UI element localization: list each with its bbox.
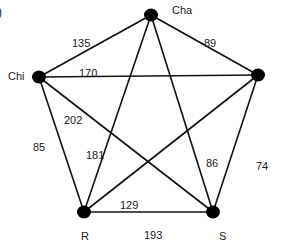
edge-weight-label: 74 [256, 161, 268, 172]
edge-e-r [84, 75, 258, 212]
graph-canvas [0, 0, 286, 245]
edge-chi-r [39, 77, 84, 212]
edge-e-s [213, 75, 258, 212]
edge-chi-e [39, 75, 258, 77]
node-cha [144, 9, 158, 22]
edge-weight-label: 85 [33, 142, 45, 153]
edge-weight-label: 135 [72, 38, 90, 49]
edge-weight-label: 89 [204, 38, 216, 49]
edge-weight-label: 170 [79, 68, 97, 79]
edge-weight-label: 129 [120, 200, 138, 211]
node-r [77, 206, 91, 219]
node-label: S [219, 231, 226, 242]
edge-chi-s [39, 77, 213, 212]
node-label: Cha [172, 5, 192, 16]
edge-weight-label: 181 [86, 150, 104, 161]
edge-weight-label: 193 [144, 230, 162, 241]
node-label: R [81, 231, 89, 242]
node-label: Chi [8, 71, 25, 82]
node-s [206, 206, 220, 219]
edge-weight-label: 202 [64, 115, 82, 126]
edge-weight-label: 86 [206, 158, 218, 169]
node-chi [32, 71, 46, 84]
edge-cha-r [84, 15, 151, 212]
node-unlabeled [251, 69, 265, 82]
